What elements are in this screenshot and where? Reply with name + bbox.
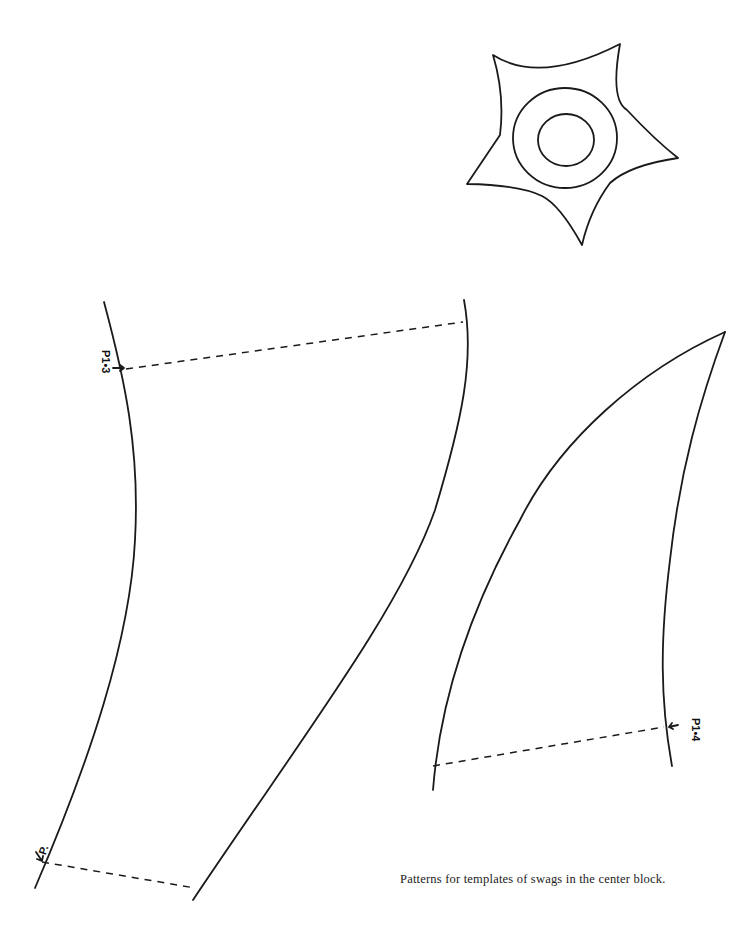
arrow-top-left-icon [113, 365, 124, 371]
star-outer-circle [513, 88, 617, 188]
page-caption: Patterns for templates of swags in the c… [400, 872, 666, 887]
left-swag-left-edge [35, 302, 136, 888]
star-outline [467, 44, 678, 245]
right-swag-pattern [433, 332, 725, 790]
star-inner-circle [538, 114, 594, 166]
right-swag-placement-line [433, 727, 664, 766]
right-swag-outer-edge [433, 332, 725, 790]
pattern-page: P1•3 P1•4 P. Patterns for templates of s… [0, 0, 751, 937]
label-right: P1•4 [690, 718, 702, 741]
star-pattern [467, 44, 678, 245]
left-swag-right-edge [193, 300, 468, 900]
left-swag-pattern [35, 300, 468, 900]
left-swag-top-placement-line [126, 322, 463, 369]
label-top-left: P1•3 [100, 350, 112, 373]
arrow-right-icon [669, 723, 678, 729]
right-swag-inner-edge [663, 332, 725, 766]
pattern-drawing [0, 0, 751, 937]
left-swag-bottom-placement-line [42, 862, 195, 888]
